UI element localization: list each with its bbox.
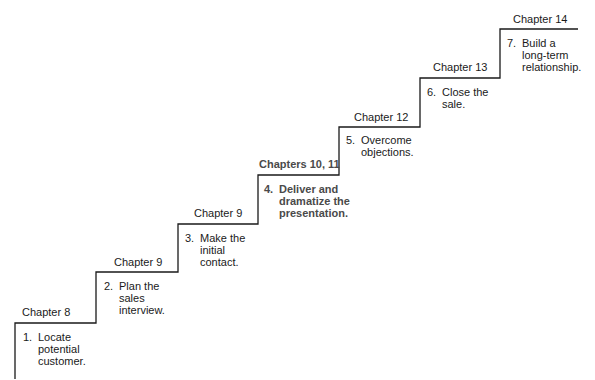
step-text: Build a long-term relationship.	[522, 37, 581, 73]
step-2: 2. Plan the sales interview.	[104, 280, 165, 316]
step-text: Make the initial contact.	[200, 232, 245, 268]
chapter-label-step-2: Chapter 9	[114, 256, 162, 269]
step-text: Overcome objections.	[361, 134, 414, 158]
step-text: Locate potential customer.	[38, 331, 86, 367]
step-5: 5. Overcome objections.	[346, 134, 414, 158]
step-number: 3.	[185, 232, 200, 268]
step-text: Plan the sales interview.	[119, 280, 165, 316]
chapter-label-step-3: Chapter 9	[194, 207, 242, 220]
chapter-label-step-4: Chapters 10, 11	[259, 158, 340, 171]
step-number: 5.	[346, 134, 361, 158]
step-4: 4. Deliver and dramatize the presentatio…	[264, 183, 350, 219]
step-1: 1. Locate potential customer.	[23, 331, 86, 367]
step-number: 1.	[23, 331, 38, 367]
step-number: 2.	[104, 280, 119, 316]
chapter-label-step-6: Chapter 13	[433, 61, 487, 74]
step-text: Close the sale.	[442, 86, 488, 110]
step-7: 7. Build a long-term relationship.	[507, 37, 581, 73]
step-number: 4.	[264, 183, 279, 219]
step-6: 6. Close the sale.	[427, 86, 488, 110]
step-3: 3. Make the initial contact.	[185, 232, 245, 268]
step-text: Deliver and dramatize the presentation.	[279, 183, 350, 219]
chapter-label-step-7: Chapter 14	[513, 13, 567, 26]
chapter-label-step-5: Chapter 12	[354, 111, 408, 124]
step-number: 7.	[507, 37, 522, 73]
step-number: 6.	[427, 86, 442, 110]
chapter-label-step-1: Chapter 8	[22, 306, 70, 319]
